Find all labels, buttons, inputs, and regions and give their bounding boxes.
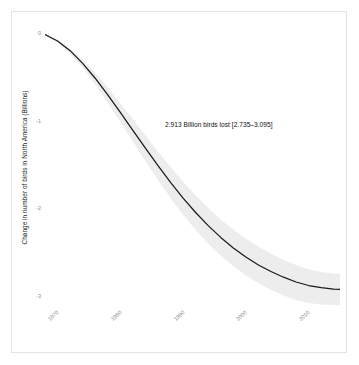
x-tick-label: 1980 [110,310,123,322]
y-axis-ticks: 0-1-2-3 [0,0,41,320]
x-tick-label: 2000 [235,310,248,322]
confidence-band [45,35,340,306]
y-tick-label: 0 [38,31,41,37]
x-tick-label: 1970 [47,310,60,322]
annotation-label: 2.913 Billion birds lost [2.735–3.095] [165,121,273,128]
line-chart-svg [45,24,340,310]
x-tick-label: 1990 [173,310,186,322]
x-tick-label: 2010 [298,310,311,322]
y-tick-label: -3 [36,294,41,300]
y-tick-label: -1 [36,119,41,125]
x-axis-ticks: 19701980199020002010 [45,310,340,350]
y-tick-label: -2 [36,206,41,212]
plot-area [45,24,340,310]
chart-figure: Change in number of birds in North Ameri… [0,0,359,365]
